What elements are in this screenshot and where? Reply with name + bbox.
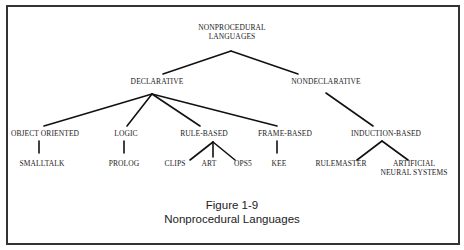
node-art: ART xyxy=(202,159,217,168)
node-kee: KEE xyxy=(272,159,287,168)
edge-rule-based-clips xyxy=(190,142,213,160)
node-object-oriented: OBJECT ORIENTED xyxy=(11,129,79,138)
figure-title: Nonprocedural Languages xyxy=(164,212,300,226)
node-logic: LOGIC xyxy=(114,129,137,138)
node-induction-based: INDUCTION-BASED xyxy=(351,129,421,138)
figure-number: Figure 1-9 xyxy=(206,198,258,212)
node-declarative: DECLARATIVE xyxy=(131,77,184,86)
edge-declarative-frame-based xyxy=(152,94,277,126)
node-frame-based: FRAME-BASED xyxy=(258,129,312,138)
edge-root-nondeclarative xyxy=(231,51,298,74)
edge-declarative-logic xyxy=(127,94,152,126)
node-ops5: OPS5 xyxy=(234,159,252,168)
edge-induction-rulemaster xyxy=(357,141,382,160)
node-nondeclarative: NONDECLARATIVE xyxy=(291,77,360,86)
edge-root-declarative xyxy=(163,51,231,74)
root-label-line1: NONPROCEDURAL xyxy=(198,23,266,32)
node-clips: CLIPS xyxy=(165,159,186,168)
edge-rule-based-ops5 xyxy=(213,142,235,160)
node-nonprocedural-languages: NONPROCEDURAL LANGUAGES xyxy=(198,23,266,41)
edge-nondeclarative-induction-based xyxy=(326,93,373,126)
node-artificial-neural-systems: ARTIFICIAL NEURAL SYSTEMS xyxy=(380,159,447,177)
ans-label-line2: NEURAL SYSTEMS xyxy=(380,168,447,177)
node-smalltalk: SMALLTALK xyxy=(19,159,64,168)
node-rulemaster: RULEMASTER xyxy=(315,159,366,168)
edge-declarative-rule-based xyxy=(152,94,200,126)
edge-induction-ans xyxy=(382,141,408,160)
ans-label-line1: ARTIFICIAL xyxy=(380,159,447,168)
edge-declarative-object-oriented xyxy=(44,94,152,126)
root-label-line2: LANGUAGES xyxy=(198,32,266,41)
node-rule-based: RULE-BASED xyxy=(180,129,228,138)
node-prolog: PROLOG xyxy=(109,159,140,168)
